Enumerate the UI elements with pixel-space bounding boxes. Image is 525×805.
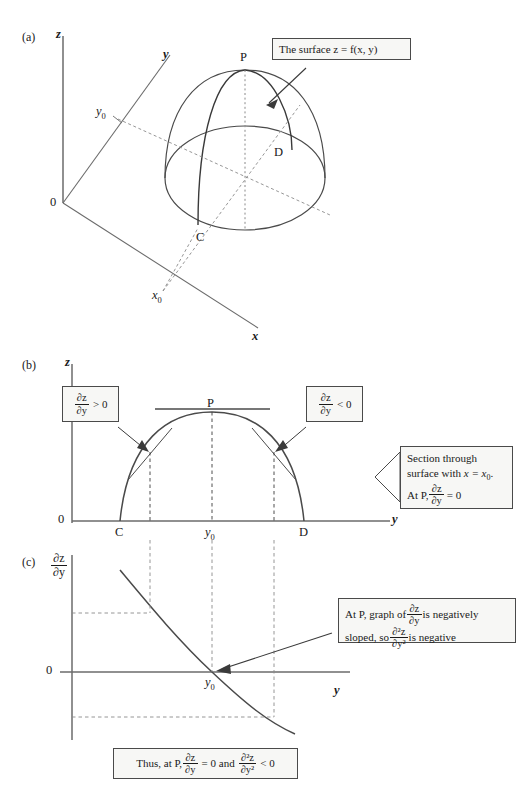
callout-conclusion-suffix: < 0	[260, 756, 274, 771]
panel-a-z-axis-label: z	[56, 28, 61, 41]
panel-a-point-c-label: C	[196, 231, 204, 244]
panel-b-point-p-label: P	[207, 397, 214, 410]
panel-b-id: (b)	[22, 359, 36, 371]
panel-c-y0-label: y0	[205, 676, 215, 691]
callout-negative-slope: At P, graph of ∂z ∂y is negatively slope…	[338, 598, 516, 643]
panel-a-x0-vertical	[163, 228, 198, 291]
panel-a-y-axis	[63, 55, 170, 203]
callout-slope-negative-relation: < 0	[337, 397, 351, 412]
panel-a-dome-outline	[165, 70, 325, 178]
panel-a-y0-label: y0	[96, 105, 106, 120]
panel-c-y-axis-label: y	[334, 684, 340, 697]
panel-b-point-d-label: D	[299, 526, 308, 539]
panel-b-z-axis-label: z	[65, 356, 70, 369]
callout-conclusion-fraction-2: ∂²z ∂y²	[239, 752, 257, 775]
panel-a-surface-pointer	[269, 68, 306, 103]
callout-conclusion-middle: = 0 and	[202, 756, 235, 771]
panel-a-x-axis-label: x	[252, 330, 258, 343]
panel-b-origin-label: 0	[58, 513, 64, 526]
panel-b-section-pointer	[375, 452, 400, 502]
figure-partial-derivatives: (a) z y x 0 y0 x0 P C D The surface z = …	[0, 0, 525, 805]
callout-negative-slope-fraction-2: ∂²z ∂y²	[390, 626, 408, 649]
callout-conclusion: Thus, at P, ∂z ∂y = 0 and ∂²z ∂y² < 0	[113, 748, 298, 779]
callout-slope-positive-denominator: ∂y	[75, 405, 89, 416]
panel-a-y0-construction-line	[118, 119, 330, 215]
callout-negative-slope-fraction-1: ∂z ∂y	[407, 603, 421, 626]
callout-slope-positive-fraction: ∂z ∂y	[75, 392, 89, 415]
panel-c-vertical-axis-fraction: ∂z ∂y	[51, 552, 67, 578]
callout-section-line1: Section through	[407, 451, 506, 466]
panel-a-artwork	[63, 36, 330, 328]
panel-a-point-p-label: P	[240, 51, 247, 64]
callout-slope-positive: ∂z ∂y > 0	[62, 386, 119, 422]
callout-slope-negative-numerator: ∂z	[319, 392, 333, 404]
callout-section-fraction: ∂z ∂y	[429, 483, 443, 506]
panel-c-artwork	[60, 540, 350, 740]
panel-a-x-axis	[63, 203, 258, 328]
callout-conclusion-prefix: Thus, at P,	[136, 756, 182, 771]
callout-slope-negative-denominator: ∂y	[319, 405, 333, 416]
panel-c-callout-pointer	[325, 600, 338, 643]
panel-a-x0-label: x0	[152, 289, 162, 304]
panel-c-vertical-axis-label: ∂z ∂y	[50, 552, 68, 578]
panel-c-derivative-curve	[120, 570, 295, 734]
panel-c-id: (c)	[22, 556, 35, 568]
panel-a-y-axis-label: y	[163, 48, 169, 61]
callout-conclusion-fraction-1: ∂z ∂y	[183, 752, 197, 775]
panel-a-origin-label: 0	[50, 196, 56, 209]
panel-b-y-axis-label: y	[392, 513, 398, 526]
callout-surface-text: The surface z = f(x, y)	[279, 42, 377, 57]
panel-a-point-d-label: D	[274, 146, 283, 159]
callout-slope-negative: ∂z ∂y < 0	[306, 386, 363, 422]
panel-b-point-c-label: C	[115, 526, 123, 539]
callout-slope-negative-fraction: ∂z ∂y	[319, 392, 333, 415]
panel-a-y0-tick	[113, 116, 122, 123]
callout-section: Section through surface with x = x0. At …	[400, 446, 513, 509]
panel-a-id: (a)	[22, 31, 35, 43]
panel-b-y0-label: y0	[205, 526, 215, 541]
callout-negative-slope-line2: sloped, so ∂²z ∂y² is negative	[345, 626, 509, 649]
callout-slope-positive-numerator: ∂z	[75, 392, 89, 404]
callout-surface: The surface z = f(x, y)	[272, 38, 411, 60]
callout-negative-slope-line1: At P, graph of ∂z ∂y is negatively	[345, 603, 509, 626]
callout-slope-positive-relation: > 0	[93, 397, 107, 412]
panel-a-x0-construction-line	[163, 105, 300, 291]
callout-section-line3: At P, ∂z ∂y = 0	[407, 483, 506, 506]
panel-c-arrow	[222, 633, 332, 669]
callout-section-line2: surface with x = x0.	[407, 466, 506, 484]
panel-c-origin-label: 0	[46, 664, 52, 677]
